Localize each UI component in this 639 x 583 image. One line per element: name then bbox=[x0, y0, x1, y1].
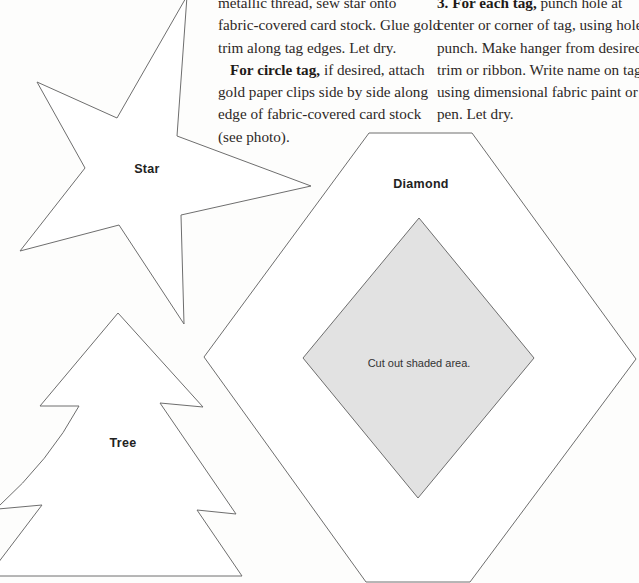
text-line: punch hole at bbox=[537, 0, 623, 11]
text-line: using dimensional fabric paint or bbox=[437, 81, 637, 103]
text-line: metallic thread, sew star onto bbox=[218, 0, 433, 14]
text-line: center or corner of tag, using hole bbox=[437, 14, 637, 36]
text-line: trim or ribbon. Write name on tag, bbox=[437, 59, 637, 81]
text-line: fabric-covered card stock. Glue gold bbox=[218, 14, 433, 36]
tree-label: Tree bbox=[110, 436, 137, 450]
step-number: 3. bbox=[437, 0, 448, 11]
circle-tag-heading: For circle tag, bbox=[230, 61, 320, 78]
instructions-column-right: 3. For each tag, punch hole at center or… bbox=[437, 0, 637, 126]
each-tag-heading: For each tag, bbox=[452, 0, 537, 11]
diamond-label: Diamond bbox=[393, 177, 449, 191]
star-label: Star bbox=[134, 162, 160, 176]
circle-tag-paragraph-start: For circle tag, if desired, attach bbox=[218, 59, 433, 81]
text-line: trim along tag edges. Let dry. bbox=[218, 37, 433, 59]
text-line: gold paper clips side by side along bbox=[218, 81, 433, 103]
text-line: edge of fabric-covered card stock bbox=[218, 103, 433, 125]
text-line: punch. Make hanger from desired bbox=[437, 37, 637, 59]
text-line: if desired, attach bbox=[320, 61, 425, 78]
text-line: (see photo). bbox=[218, 126, 433, 148]
text-line: pen. Let dry. bbox=[437, 103, 637, 125]
instructions-column-left: metallic thread, sew star onto fabric-co… bbox=[218, 0, 433, 148]
cutout-note: Cut out shaded area. bbox=[368, 357, 471, 369]
step-3-start: 3. For each tag, punch hole at bbox=[437, 0, 637, 14]
